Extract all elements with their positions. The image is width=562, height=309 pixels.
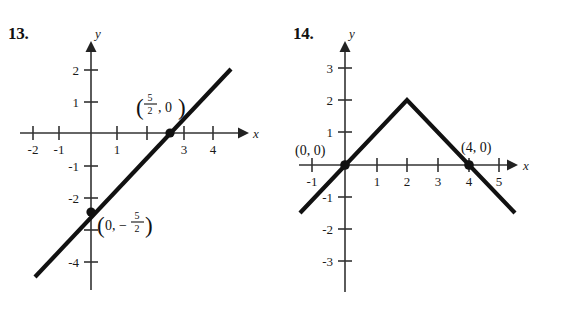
label-close-paren: ) (178, 95, 186, 120)
x-tick-label-4: 4 (210, 142, 217, 157)
y-tick-label-neg4: -4 (68, 255, 79, 270)
point-x-intercept-13 (165, 128, 174, 137)
figure-13: 13. -2 -1 1 3 4 2 1 -1 -2 -4 (0, 0, 281, 309)
y-tick-label-neg2: -2 (322, 222, 333, 237)
label2-prefix: 0, − (105, 218, 127, 233)
y-tick-label-neg1: -1 (322, 190, 333, 205)
x-tick-label-4: 4 (466, 174, 473, 189)
y-tick-label-neg2: -2 (68, 191, 79, 206)
x-tick-label-neg2: -2 (28, 142, 39, 157)
y-axis-arrow-icon (340, 41, 351, 52)
y-tick-label-2: 2 (327, 93, 334, 108)
figure-14: 14. -1 1 2 3 4 5 3 2 1 -1 -2 -3 (281, 0, 562, 309)
y-tick-label-3: 3 (327, 61, 334, 76)
label-y-intercept-13: ( 0, − 5 2 ) (97, 210, 153, 238)
label-fraction-denominator: 2 (148, 105, 153, 116)
x-tick-label-2: 2 (404, 174, 411, 189)
label2-fraction-denominator: 2 (135, 223, 140, 234)
x-tick-label-3: 3 (181, 142, 188, 157)
x-tick-label-neg1: -1 (54, 142, 65, 157)
x-axis-arrow-icon (238, 128, 249, 139)
x-tick-label-1: 1 (374, 174, 381, 189)
point-x-intercept-14 (464, 160, 474, 170)
label2-open-paren: ( (97, 213, 105, 238)
label2-close-paren: ) (145, 213, 153, 238)
label-fraction-numerator: 5 (148, 92, 153, 103)
label-x-intercept-13: ( 5 2 , 0 ) (136, 92, 186, 120)
x-axis-label: x (522, 158, 529, 173)
x-axis-arrow-icon (507, 160, 518, 171)
y-tick-label-1: 1 (73, 95, 80, 110)
y-axis-arrow-icon (86, 41, 97, 52)
y-tick-label-1: 1 (327, 125, 334, 140)
label-x-intercept-14: (4, 0) (461, 140, 492, 156)
y-axis-label: y (347, 26, 355, 41)
x-axis-label: x (252, 126, 259, 141)
graph-line-13 (35, 69, 231, 277)
x-tick-label-5: 5 (496, 174, 503, 189)
label-open-paren: ( (136, 95, 144, 120)
x-tick-label-1: 1 (114, 142, 121, 157)
y-axis-label: y (93, 26, 101, 41)
y-tick-label-neg1: -1 (68, 159, 79, 174)
label2-fraction-numerator: 5 (135, 210, 140, 221)
y-tick-label-neg3: -3 (322, 254, 333, 269)
point-y-intercept-13 (86, 207, 95, 216)
plot-14: -1 1 2 3 4 5 3 2 1 -1 -2 -3 x y (0, 0) (… (281, 0, 562, 309)
x-tick-label-neg1: -1 (307, 174, 318, 189)
label-comma-zero: , 0 (158, 100, 172, 115)
y-tick-label-2: 2 (73, 63, 80, 78)
point-origin-14 (340, 160, 350, 170)
x-tick-label-3: 3 (435, 174, 442, 189)
plot-13: -2 -1 1 3 4 2 1 -1 -2 -4 x y ( 5 2 , 0 )… (0, 0, 281, 309)
label-origin-14: (0, 0) (295, 143, 326, 159)
